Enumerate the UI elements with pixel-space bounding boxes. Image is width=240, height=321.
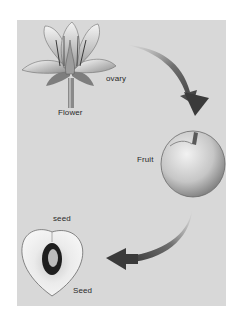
- seed-label: Seed: [73, 287, 92, 295]
- diagram-artwork: [0, 0, 240, 321]
- seed-callout-label: seed: [53, 215, 71, 223]
- diagram-canvas: ovary Flower Fruit seed Seed: [0, 0, 240, 321]
- ovary-label: ovary: [106, 75, 126, 83]
- fruit-label: Fruit: [137, 156, 154, 164]
- arrow-flower-to-fruit-icon: [128, 45, 209, 116]
- flower-label: Flower: [58, 109, 83, 117]
- fruit-illustration: [161, 131, 225, 197]
- arrow-fruit-to-seed-icon: [106, 210, 192, 270]
- flower-illustration: [22, 22, 116, 108]
